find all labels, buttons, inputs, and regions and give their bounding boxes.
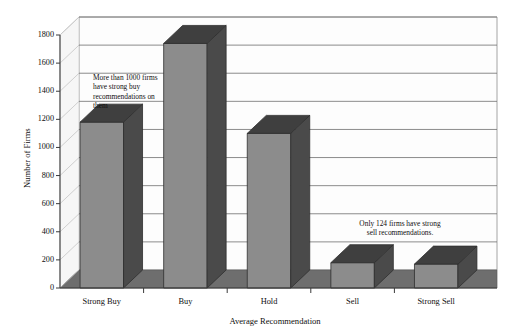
annotation-strong-sell: Only 124 firms have strong sell recommen…	[335, 219, 465, 238]
x-tick-label: Buy	[140, 297, 230, 307]
plot-left-wall	[60, 17, 79, 288]
y-tick-label: 1200	[20, 114, 54, 124]
x-tick-label: Sell	[308, 297, 398, 307]
bar-hold	[247, 115, 309, 288]
y-tick-label: 1400	[20, 86, 54, 96]
chart-canvas	[0, 0, 513, 335]
chart-container: 020040060080010001200140016001800 Strong…	[0, 0, 513, 335]
x-axis-ticks	[144, 288, 395, 293]
y-tick-label: 200	[20, 255, 54, 265]
bar-buy	[164, 25, 226, 288]
y-axis-title: Number of Firms	[22, 128, 32, 188]
y-tick-label: 1800	[20, 30, 54, 40]
y-tick-label: 400	[20, 227, 54, 237]
y-tick-label: 600	[20, 199, 54, 209]
annotation-strong-buy: More than 1000 firms have strong buy rec…	[93, 73, 197, 111]
y-axis-ticks	[56, 35, 60, 288]
x-tick-label: Hold	[224, 297, 314, 307]
bar-strong-buy	[80, 104, 142, 288]
x-tick-label: Strong Sell	[391, 297, 481, 307]
y-tick-label: 0	[20, 283, 54, 293]
y-tick-label: 1600	[20, 58, 54, 68]
x-axis-title: Average Recommendation	[155, 316, 395, 326]
x-tick-label: Strong Buy	[57, 297, 147, 307]
